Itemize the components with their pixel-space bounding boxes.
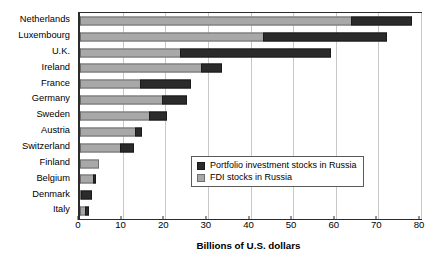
x-tick-label: 0 bbox=[75, 220, 80, 230]
chart-legend: Portfolio investment stocks in Russia FD… bbox=[191, 156, 364, 187]
bar-segment-portfolio bbox=[149, 111, 167, 120]
bar-row bbox=[80, 92, 421, 108]
bar-segment-portfolio bbox=[263, 32, 387, 41]
gridline bbox=[421, 13, 422, 219]
stacked-bar[interactable] bbox=[80, 32, 387, 41]
legend-item-portfolio: Portfolio investment stocks in Russia bbox=[197, 161, 357, 170]
x-tick-label: 60 bbox=[328, 220, 339, 230]
bar-segment-portfolio bbox=[120, 143, 134, 152]
bar-segment-portfolio bbox=[201, 64, 221, 73]
bar-row bbox=[80, 187, 421, 203]
bar-row bbox=[80, 76, 421, 92]
plot-area bbox=[78, 12, 422, 220]
bar-segment-fdi bbox=[80, 48, 180, 57]
bar-row bbox=[80, 203, 421, 219]
category-label: Belgium bbox=[0, 170, 74, 186]
category-label: Finland bbox=[0, 155, 74, 171]
bar-segment-portfolio bbox=[135, 127, 141, 136]
x-axis-label: Billions of U.S. dollars bbox=[78, 240, 419, 251]
bar-rows bbox=[80, 13, 421, 219]
category-label: Germany bbox=[0, 91, 74, 107]
stacked-bar[interactable] bbox=[80, 127, 142, 136]
bar-row bbox=[80, 124, 421, 140]
stacked-bar[interactable] bbox=[80, 64, 222, 73]
bar-segment-fdi bbox=[80, 127, 135, 136]
legend-label: Portfolio investment stocks in Russia bbox=[210, 161, 357, 170]
category-label: Sweden bbox=[0, 107, 74, 123]
legend-swatch-fdi-icon bbox=[197, 174, 205, 182]
x-tick-label: 70 bbox=[371, 220, 382, 230]
x-tick-label: 30 bbox=[201, 220, 212, 230]
stacked-bar[interactable] bbox=[80, 191, 92, 200]
bar-segment-fdi bbox=[80, 111, 149, 120]
y-axis-category-labels: Netherlands Luxembourg U.K. Ireland Fran… bbox=[0, 12, 74, 218]
bar-segment-fdi bbox=[80, 64, 201, 73]
stacked-bar[interactable] bbox=[80, 143, 134, 152]
chart-container: Netherlands Luxembourg U.K. Ireland Fran… bbox=[0, 0, 437, 266]
bar-row bbox=[80, 61, 421, 77]
stacked-bar[interactable] bbox=[80, 80, 191, 89]
category-label: Luxembourg bbox=[0, 28, 74, 44]
bar-segment-fdi bbox=[80, 175, 93, 184]
bar-row bbox=[80, 13, 421, 29]
bar-segment-fdi bbox=[80, 16, 351, 25]
bar-row bbox=[80, 140, 421, 156]
x-tick-label: 80 bbox=[414, 220, 425, 230]
bar-segment-portfolio bbox=[81, 191, 92, 200]
x-axis-ticks: 01020304050607080 bbox=[78, 220, 419, 234]
category-label: Ireland bbox=[0, 60, 74, 76]
legend-label: FDI stocks in Russia bbox=[210, 173, 292, 182]
x-tick-label: 50 bbox=[286, 220, 297, 230]
stacked-bar[interactable] bbox=[80, 16, 412, 25]
category-label: Austria bbox=[0, 123, 74, 139]
category-label: Netherlands bbox=[0, 12, 74, 28]
legend-swatch-portfolio-icon bbox=[197, 162, 205, 170]
x-tick-label: 10 bbox=[115, 220, 126, 230]
category-label: U.K. bbox=[0, 44, 74, 60]
stacked-bar[interactable] bbox=[80, 207, 89, 216]
bar-segment-fdi bbox=[80, 96, 162, 105]
bar-segment-fdi bbox=[80, 32, 263, 41]
bar-segment-portfolio bbox=[180, 48, 331, 57]
bar-segment-portfolio bbox=[351, 16, 413, 25]
x-tick-label: 20 bbox=[158, 220, 169, 230]
bar-segment-portfolio bbox=[85, 207, 88, 216]
bar-segment-fdi bbox=[80, 159, 99, 168]
bar-segment-portfolio bbox=[162, 96, 186, 105]
legend-item-fdi: FDI stocks in Russia bbox=[197, 173, 357, 182]
stacked-bar[interactable] bbox=[80, 48, 331, 57]
bar-segment-fdi bbox=[80, 143, 120, 152]
x-tick-label: 40 bbox=[243, 220, 254, 230]
category-label: Switzerland bbox=[0, 139, 74, 155]
category-label: France bbox=[0, 75, 74, 91]
category-label: Italy bbox=[0, 202, 74, 218]
bar-segment-portfolio bbox=[93, 175, 96, 184]
bar-row bbox=[80, 45, 421, 61]
stacked-bar[interactable] bbox=[80, 96, 187, 105]
bar-segment-fdi bbox=[80, 80, 140, 89]
bar-row bbox=[80, 108, 421, 124]
category-label: Denmark bbox=[0, 186, 74, 202]
bar-segment-portfolio bbox=[140, 80, 191, 89]
bar-row bbox=[80, 29, 421, 45]
stacked-bar[interactable] bbox=[80, 111, 167, 120]
stacked-bar[interactable] bbox=[80, 159, 99, 168]
stacked-bar[interactable] bbox=[80, 175, 96, 184]
